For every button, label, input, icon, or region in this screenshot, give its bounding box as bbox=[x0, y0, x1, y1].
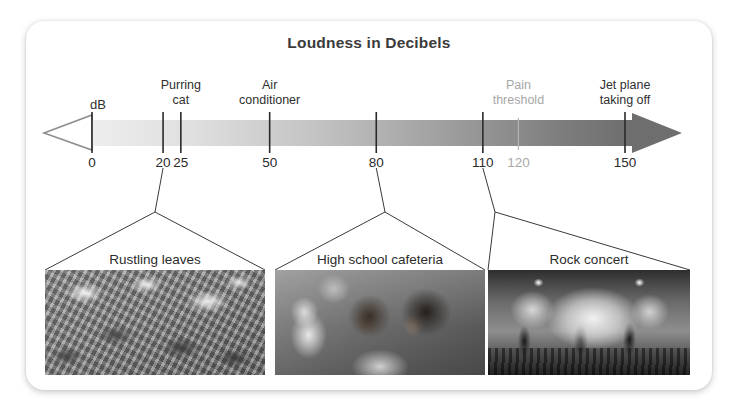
photo-image bbox=[45, 270, 265, 375]
label-line: threshold bbox=[493, 93, 544, 108]
label-line: taking off bbox=[600, 93, 651, 108]
db-unit-label: dB bbox=[90, 97, 106, 112]
label-line: Purring bbox=[161, 78, 201, 93]
photo-rustling-leaves bbox=[45, 270, 265, 375]
tick-value-25: 25 bbox=[173, 155, 188, 170]
photo-caption: Rustling leaves bbox=[109, 252, 201, 267]
label-line: Pain bbox=[493, 78, 544, 93]
scale-label-jet plane-taking off: Jet planetaking off bbox=[600, 78, 651, 107]
label-line: Air bbox=[239, 78, 300, 93]
tick-value-50: 50 bbox=[262, 155, 277, 170]
label-line: Jet plane bbox=[600, 78, 651, 93]
photo-rock-concert bbox=[488, 270, 690, 375]
scale-label-purring-cat: Purringcat bbox=[161, 78, 201, 107]
tick-value-20: 20 bbox=[156, 155, 171, 170]
label-line: conditioner bbox=[239, 93, 300, 108]
scale-label-air-conditioner: Airconditioner bbox=[239, 78, 300, 107]
tick-value-0: 0 bbox=[88, 155, 96, 170]
tick-value-150: 150 bbox=[614, 155, 637, 170]
scale-label-pain-threshold: Painthreshold bbox=[493, 78, 544, 107]
tick-value-80: 80 bbox=[369, 155, 384, 170]
label-line: cat bbox=[161, 93, 201, 108]
photo-caption: High school cafeteria bbox=[317, 252, 443, 267]
photo-caption: Rock concert bbox=[550, 252, 629, 267]
photo-high-school-cafeteria bbox=[275, 270, 485, 375]
photo-image bbox=[488, 270, 690, 375]
page-title: Loudness in Decibels bbox=[26, 34, 712, 52]
photo-image bbox=[275, 270, 485, 375]
tick-value-110: 110 bbox=[472, 155, 494, 170]
tick-value-120: 120 bbox=[507, 155, 530, 170]
